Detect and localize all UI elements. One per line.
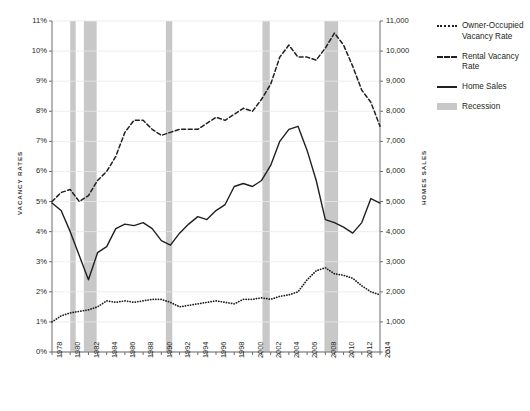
y-tick-label-left: 0% [14,347,47,356]
x-tick-label: 1990 [165,342,174,358]
chart-legend: Owner-Occupied Vacancy RateRental Vacanc… [437,21,529,122]
legend-item-label: Owner-Occupied Vacancy Rate [462,21,529,42]
x-tick-label: 2006 [310,342,319,358]
x-tick-label: 1984 [110,342,119,358]
x-tick-label: 2012 [365,342,374,358]
y-tick-label-right: 10,000 [386,46,409,55]
y-tick-label-left: 2% [14,287,47,296]
legend-swatch-dashed-icon [437,52,457,62]
y-tick-label-left: 4% [14,227,47,236]
x-tick-label: 2014 [383,342,392,358]
y-tick-label-right: 4,000 [386,227,405,236]
y-tick-label-left: 9% [14,76,47,85]
legend-item[interactable]: Recession [437,102,529,113]
legend-item-label: Home Sales [462,82,507,93]
legend-item[interactable]: Rental Vacancy Rate [437,52,529,73]
y-tick-label-left: 6% [14,166,47,175]
y-tick-label-right: 7,000 [386,136,405,145]
x-tick-label: 1996 [219,342,228,358]
y-tick-label-right: 5,000 [386,197,405,206]
y-tick-label-right: 2,000 [386,287,405,296]
y-tick-label-left: 11% [14,16,47,25]
legend-item-label: Rental Vacancy Rate [462,52,529,73]
legend-item-label: Recession [462,102,500,113]
x-tick-label: 1992 [183,342,192,358]
x-tick-label: 2008 [329,342,338,358]
y-tick-label-left: 7% [14,136,47,145]
x-tick-label: 1998 [237,342,246,358]
x-tick-label: 2004 [292,342,301,358]
y-tick-label-right: 9,000 [386,76,405,85]
recession-band [70,21,75,352]
y-tick-label-left: 10% [14,46,47,55]
recession-band [262,21,269,352]
recession-band [324,21,338,352]
y-tick-label-right: 11,000 [386,16,409,25]
x-tick-label: 2002 [274,342,283,358]
x-tick-label: 1982 [92,342,101,358]
y-tick-label-right: 1,000 [386,317,405,326]
legend-item[interactable]: Owner-Occupied Vacancy Rate [437,21,529,42]
vacancy-rates-home-sales-chart: VACANCY RATES HOMES SALES 0%1%2%3%4%5%6%… [0,0,530,411]
legend-swatch-dotted-icon [437,21,457,31]
legend-item[interactable]: Home Sales [437,82,529,93]
y-tick-label-right: 8,000 [386,106,405,115]
x-tick-label: 1988 [146,342,155,358]
x-tick-label: 2010 [347,342,356,358]
legend-swatch-solid-icon [437,82,457,92]
y-tick-label-left: 1% [14,317,47,326]
y-tick-label-right: 3,000 [386,257,405,266]
y-tick-label-right: 6,000 [386,166,405,175]
x-tick-label: 1980 [73,342,82,358]
x-tick-label: 2000 [256,342,265,358]
y-tick-label-left: 5% [14,197,47,206]
y-tick-label-left: 8% [14,106,47,115]
x-tick-label: 1986 [128,342,137,358]
x-tick-label: 1994 [201,342,210,358]
x-tick-label: 1978 [55,342,64,358]
legend-swatch-band-icon [437,102,457,112]
y-tick-label-left: 3% [14,257,47,266]
